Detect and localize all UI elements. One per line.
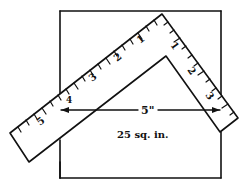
dimension-label: 5" — [141, 104, 154, 117]
area-label: 25 sq. in. — [117, 129, 169, 140]
carpenters-square-diagram: 1 2 3 4 5 1 2 3 5" 25 sq. in. — [0, 0, 249, 188]
left-arm-number-4: 4 — [66, 95, 72, 105]
